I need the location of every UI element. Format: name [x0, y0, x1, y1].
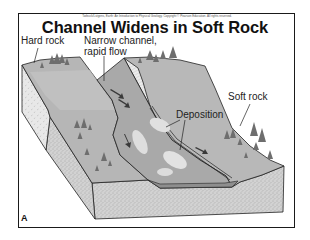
label-deposition: Deposition	[176, 110, 223, 120]
label-narrow-channel-line1: Narrow channel,	[84, 36, 157, 46]
label-soft-rock: Soft rock	[228, 92, 267, 102]
panel-letter: A	[21, 213, 28, 223]
label-narrow-channel-line2: rapid flow	[84, 47, 127, 57]
label-hard-rock: Hard rock	[21, 36, 64, 46]
